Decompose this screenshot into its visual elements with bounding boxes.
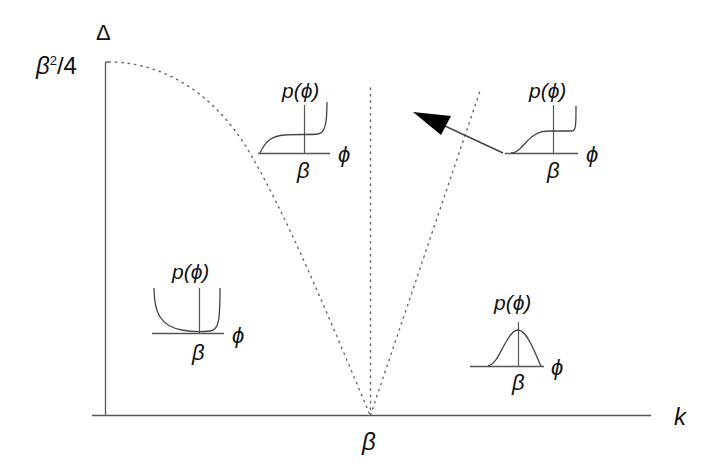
inset-upper-right-beta-label: β bbox=[547, 160, 560, 182]
y-axis-label: Δ bbox=[96, 22, 111, 44]
inset-curve bbox=[154, 288, 220, 332]
parabola-boundary bbox=[109, 62, 370, 415]
x-axis-label: k bbox=[674, 405, 686, 429]
inset-curve bbox=[511, 106, 576, 153]
y-max-rest: /4 bbox=[57, 52, 77, 79]
inset-curve bbox=[488, 330, 541, 366]
inset-lower-right-beta-label: β bbox=[512, 372, 525, 394]
inset-upper-middle-p-label: p(ϕ) bbox=[282, 80, 319, 101]
arrow-head-icon bbox=[413, 112, 451, 135]
inset-lower-left-p-label: p(ϕ) bbox=[172, 261, 209, 282]
y-max-base: β bbox=[36, 52, 50, 79]
phase-diagram-canvas bbox=[0, 0, 715, 474]
diagonal-boundary bbox=[371, 88, 482, 415]
inset-lower-right-p-label: p(ϕ) bbox=[494, 292, 531, 313]
inset-lower-left bbox=[152, 288, 224, 334]
y-axis-max-label: β2/4 bbox=[36, 54, 77, 78]
inset-lower-left-phi-label: ϕ bbox=[232, 325, 244, 347]
inset-upper-middle-phi-label: ϕ bbox=[338, 144, 350, 166]
inset-upper-middle bbox=[258, 102, 330, 154]
transition-arrow bbox=[413, 112, 503, 153]
inset-upper-middle-beta-label: β bbox=[297, 160, 310, 182]
inset-lower-right-phi-label: ϕ bbox=[551, 357, 563, 379]
inset-upper-right bbox=[505, 105, 578, 154]
inset-lower-left-beta-label: β bbox=[192, 342, 205, 364]
inset-curve bbox=[260, 102, 327, 153]
arrow-shaft bbox=[445, 126, 503, 153]
y-max-exponent: 2 bbox=[50, 53, 57, 68]
inset-upper-right-phi-label: ϕ bbox=[586, 144, 598, 166]
x-axis-tick-beta: β bbox=[362, 430, 376, 454]
inset-lower-right bbox=[470, 322, 544, 367]
inset-upper-right-p-label: p(ϕ) bbox=[529, 80, 566, 101]
